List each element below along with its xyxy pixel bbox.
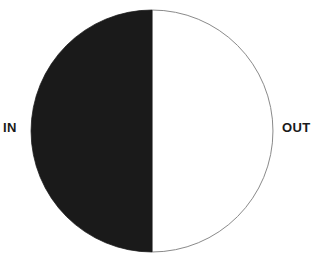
pie-chart-graphic xyxy=(0,0,318,263)
pie-chart-figure: IN OUT xyxy=(0,0,318,263)
pie-slice-out[interactable] xyxy=(31,10,152,252)
pie-label-out: OUT xyxy=(282,121,311,134)
pie-slice-in[interactable] xyxy=(152,10,273,252)
pie-label-in: IN xyxy=(3,121,17,134)
